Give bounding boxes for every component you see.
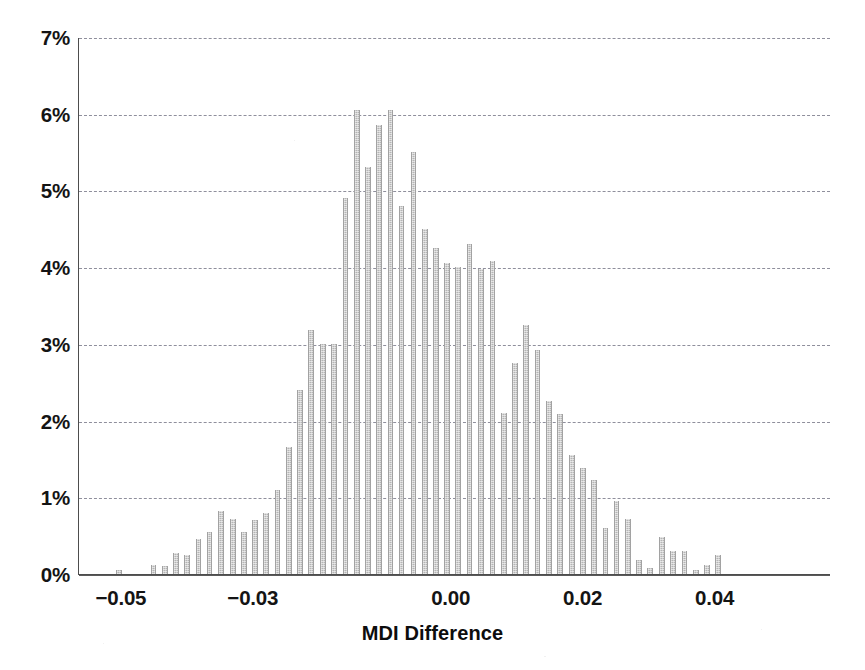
histogram-bar (603, 528, 609, 574)
histogram-bar (557, 414, 563, 574)
histogram-bar (151, 565, 157, 574)
histogram-bar (512, 363, 518, 574)
y-tick-label-5: 5% (10, 179, 70, 203)
histogram-bar (218, 511, 224, 574)
y-tick-label-3: 3% (10, 333, 70, 357)
histogram-bar (614, 501, 620, 574)
histogram-bar (263, 513, 269, 574)
histogram-bar (535, 350, 541, 574)
histogram-bar (501, 413, 507, 574)
histogram-bar (670, 551, 676, 574)
histogram-bar (591, 480, 597, 574)
histogram-bar (490, 261, 496, 574)
histogram-bar (376, 125, 382, 574)
histogram-bar (297, 390, 303, 574)
histogram-bar (682, 551, 688, 574)
x-axis-title: MDI Difference (0, 622, 865, 645)
histogram-bar (455, 267, 461, 574)
y-tick-label-2: 2% (10, 410, 70, 434)
histogram-bar (636, 560, 642, 574)
histogram-bar (275, 490, 281, 574)
x-tick-label-0: −0.05 (61, 586, 181, 610)
x-tick-label-3: 0.02 (523, 586, 643, 610)
histogram-bar (467, 244, 473, 574)
histogram-bar (388, 110, 394, 574)
histogram-bar (659, 537, 665, 574)
y-tick-label-6: 6% (10, 103, 70, 127)
x-tick-label-1: −0.03 (193, 586, 313, 610)
histogram-bar (647, 568, 653, 574)
histogram-bar (715, 555, 721, 574)
histogram-bar (207, 532, 213, 574)
histogram-bar (625, 519, 631, 574)
plot-area (78, 38, 830, 575)
histogram-bar (365, 167, 371, 574)
histogram-bar (331, 344, 337, 574)
histogram-bar (580, 468, 586, 574)
histogram-bar (230, 519, 236, 574)
gridline-6pct (79, 115, 830, 116)
histogram-bar (354, 110, 360, 574)
histogram-bar (523, 325, 529, 574)
histogram-bar (320, 344, 326, 574)
histogram-bar (116, 570, 122, 574)
histogram-bar (399, 206, 405, 574)
histogram-bar (433, 248, 439, 574)
histogram-bar (241, 532, 247, 574)
histogram-bar (478, 269, 484, 574)
histogram-bar (184, 555, 190, 574)
histogram-bar (286, 447, 292, 574)
y-tick-label-4: 4% (10, 256, 70, 280)
x-tick-label-4: 0.04 (655, 586, 775, 610)
gridline-5pct (79, 191, 830, 192)
y-tick-label-7: 7% (10, 26, 70, 50)
histogram-bar (162, 566, 168, 574)
gridline-7pct (79, 38, 830, 39)
gridline-0pct (79, 575, 830, 576)
histogram-bar (422, 229, 428, 574)
x-tick-label-2: 0.00 (391, 586, 511, 610)
histogram-bar (411, 152, 417, 574)
histogram-bar (569, 455, 575, 574)
histogram-bar (196, 539, 202, 574)
histogram-bar (343, 198, 349, 574)
histogram-bar (693, 570, 699, 574)
histogram-bar (444, 263, 450, 574)
histogram-bar (308, 330, 314, 574)
histogram-figure: 0%1%2%3%4%5%6%7% −0.05−0.030.000.020.04 … (0, 0, 865, 670)
y-tick-label-1: 1% (10, 486, 70, 510)
histogram-bar (252, 520, 258, 574)
y-tick-label-0: 0% (10, 563, 70, 587)
histogram-bar (546, 401, 552, 574)
histogram-bar (704, 565, 710, 574)
histogram-bar (173, 553, 179, 574)
